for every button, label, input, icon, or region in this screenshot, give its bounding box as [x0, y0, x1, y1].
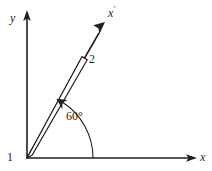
x-axis: [27, 154, 197, 162]
y-axis: [23, 10, 31, 158]
x-prime-axis-label-accent: ′: [113, 4, 115, 14]
y-axis-label: y: [10, 12, 15, 24]
angle-label: 60°: [66, 110, 83, 122]
rod: [27, 57, 87, 158]
angle-indicator: [57, 99, 94, 158]
x-prime-axis-arrowhead: [93, 22, 105, 35]
origin-label: 1: [7, 151, 13, 163]
rod-label: 2: [89, 53, 95, 65]
diagram-svg: [0, 0, 212, 171]
x-prime-axis-label: x′: [108, 5, 115, 19]
x-axis-label: x: [200, 151, 205, 163]
figure-canvas: y x x′ 2 1 60°: [0, 0, 212, 171]
rod-body: [27, 57, 87, 158]
